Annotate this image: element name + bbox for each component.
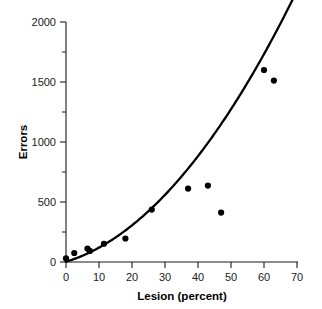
y-tick-label-2000: 2000 <box>32 16 56 28</box>
x-axis-title: Lesion (percent) <box>137 290 227 302</box>
data-point <box>71 250 77 256</box>
data-point <box>122 235 128 241</box>
x-tick-label-10: 10 <box>93 271 105 283</box>
data-point <box>271 77 277 83</box>
data-point <box>101 241 107 247</box>
x-tick-label-0: 0 <box>63 271 69 283</box>
x-tick-label-30: 30 <box>159 271 171 283</box>
data-point <box>63 255 69 261</box>
chart-figure: 0 500 1000 1500 2000 0 10 20 30 40 50 60… <box>0 0 322 309</box>
x-tick-label-40: 40 <box>192 271 204 283</box>
data-point <box>205 182 211 188</box>
y-tick-label-0: 0 <box>50 256 56 268</box>
y-tick-label-500: 500 <box>38 196 56 208</box>
x-tick-label-50: 50 <box>225 271 237 283</box>
scatter-plot: 0 500 1000 1500 2000 0 10 20 30 40 50 60… <box>0 0 322 309</box>
data-point <box>149 206 155 212</box>
y-tick-label-1500: 1500 <box>32 76 56 88</box>
data-point <box>185 185 191 191</box>
y-tick-label-1000: 1000 <box>32 136 56 148</box>
x-tick-label-70: 70 <box>291 271 303 283</box>
data-point <box>87 248 93 254</box>
data-point <box>261 67 267 73</box>
y-axis-title: Errors <box>17 125 29 160</box>
data-point <box>218 209 224 215</box>
x-tick-label-60: 60 <box>258 271 270 283</box>
plot-background <box>0 0 322 309</box>
x-tick-label-20: 20 <box>126 271 138 283</box>
